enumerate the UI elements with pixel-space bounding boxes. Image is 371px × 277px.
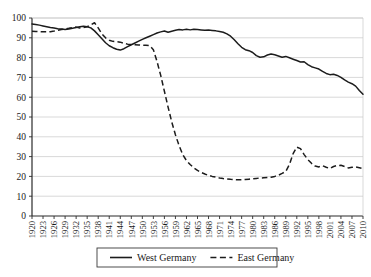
- series-line-west-germany: [32, 24, 363, 94]
- x-axis-label: 1935: [82, 221, 92, 238]
- x-axis-label: 1929: [60, 221, 70, 238]
- x-axis-label: 1974: [226, 220, 236, 238]
- x-axis-label: 1959: [171, 221, 181, 238]
- y-axis-label: 100: [12, 13, 27, 23]
- x-axis-label: 1992: [292, 221, 302, 238]
- x-axis-label: 2001: [325, 221, 335, 238]
- x-axis-label: 1956: [160, 220, 170, 238]
- chart-legend: West GermanyEast Germany: [97, 248, 294, 267]
- x-axis-label: 1947: [127, 220, 137, 238]
- y-axis-label: 80: [17, 53, 27, 63]
- x-axis-label: 1980: [248, 221, 258, 238]
- legend-label: West Germany: [137, 252, 196, 263]
- y-axis-label: 70: [17, 73, 27, 83]
- x-axis-label: 1989: [281, 221, 291, 238]
- y-axis-label: 40: [17, 132, 27, 142]
- y-axis-label: 90: [17, 33, 27, 43]
- x-axis-label: 1953: [149, 221, 159, 238]
- x-axis-label: 1926: [49, 220, 59, 238]
- x-axis-label: 2004: [336, 220, 346, 238]
- chart-container: 0102030405060708090100 19201923192619291…: [0, 0, 371, 277]
- y-axis-label: 50: [17, 112, 27, 122]
- x-axis-label: 1920: [27, 221, 37, 238]
- series-line-east-germany: [32, 23, 363, 180]
- line-chart: 0102030405060708090100 19201923192619291…: [0, 0, 371, 277]
- x-axis-label: 1968: [204, 221, 214, 238]
- x-axis-label: 1971: [215, 221, 225, 238]
- x-axis-label: 1977: [237, 220, 247, 238]
- y-axis-label: 10: [17, 192, 27, 202]
- y-axis-tick-labels: 0102030405060708090100: [12, 13, 32, 221]
- x-axis-label: 1938: [93, 221, 103, 238]
- x-axis-label: 1923: [38, 221, 48, 238]
- x-axis-label: 1998: [314, 221, 324, 238]
- x-axis-label: 2010: [358, 221, 368, 238]
- data-series-group: [32, 23, 363, 180]
- x-axis-label: 1944: [115, 220, 125, 238]
- x-axis-label: 1983: [259, 221, 269, 238]
- gridlines-group: [32, 18, 363, 196]
- x-axis-label: 2007: [347, 220, 357, 238]
- y-axis-label: 20: [17, 172, 27, 182]
- x-axis-label: 1950: [138, 221, 148, 238]
- x-axis-label: 1995: [303, 221, 313, 238]
- legend-label: East Germany: [237, 252, 294, 263]
- x-axis-label: 1986: [270, 220, 280, 238]
- x-axis-label: 1932: [71, 221, 81, 238]
- x-axis-tick-labels: 1920192319261929193219351938194119441947…: [27, 216, 368, 238]
- x-axis-label: 1965: [193, 221, 203, 238]
- y-axis-label: 30: [17, 152, 27, 162]
- y-axis-label: 60: [17, 93, 27, 103]
- x-axis-label: 1962: [182, 221, 192, 238]
- y-axis-label: 0: [21, 211, 26, 221]
- x-axis-label: 1941: [104, 221, 114, 238]
